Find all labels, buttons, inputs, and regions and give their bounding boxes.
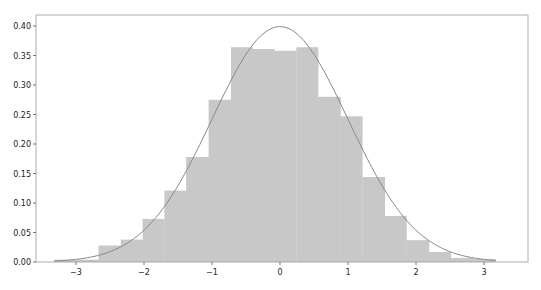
histogram-bar <box>451 258 474 262</box>
histogram-bar <box>406 240 429 262</box>
histogram-bars <box>54 47 496 262</box>
x-axis-ticks: −3−2−10123 <box>70 262 486 277</box>
x-tick-label: 3 <box>481 268 486 277</box>
histogram-bar <box>143 219 165 262</box>
histogram-bar <box>318 97 341 262</box>
x-tick-label: 0 <box>277 268 282 277</box>
histogram-chart: −3−2−10123 0.000.050.100.150.200.250.300… <box>0 0 541 290</box>
y-tick-label: 0.15 <box>13 170 31 179</box>
y-tick-label: 0.20 <box>13 140 31 149</box>
histogram-bar <box>341 116 363 262</box>
y-tick-label: 0.05 <box>13 229 31 238</box>
histogram-bar <box>275 51 297 262</box>
y-tick-label: 0.40 <box>13 22 31 31</box>
y-tick-label: 0.00 <box>13 258 31 267</box>
histogram-bar <box>186 157 209 262</box>
x-tick-label: 2 <box>413 268 418 277</box>
histogram-bar <box>429 252 451 262</box>
histogram-bar <box>362 177 385 262</box>
histogram-bar <box>296 47 318 262</box>
y-axis-ticks: 0.000.050.100.150.200.250.300.350.40 <box>13 22 36 267</box>
y-tick-label: 0.30 <box>13 81 31 90</box>
y-tick-label: 0.10 <box>13 199 31 208</box>
x-tick-label: −3 <box>70 268 82 277</box>
x-tick-label: −1 <box>206 268 218 277</box>
y-tick-label: 0.35 <box>13 52 31 61</box>
histogram-bar <box>231 47 253 262</box>
y-tick-label: 0.25 <box>13 111 31 120</box>
histogram-bar <box>253 49 275 262</box>
x-tick-label: −2 <box>138 268 150 277</box>
x-tick-label: 1 <box>345 268 350 277</box>
histogram-bar <box>209 100 232 262</box>
histogram-bar <box>121 240 143 262</box>
histogram-bar <box>385 216 407 262</box>
